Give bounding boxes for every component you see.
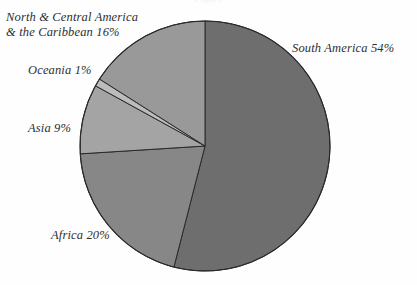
pie-label-oceania: Oceania 1%: [28, 63, 92, 78]
pie-label-africa: Africa 20%: [51, 228, 110, 243]
pie-chart-figure: Figure North & Central America & the Car…: [0, 0, 417, 285]
pie-label-asia: Asia 9%: [28, 121, 71, 136]
pie-label-north-central-america-line1: North & Central America: [6, 10, 138, 25]
pie-label-south-america: South America 54%: [292, 41, 394, 56]
pie-label-north-central-america-line2: & the Caribbean 16%: [6, 25, 138, 40]
pie-label-north-central-america: North & Central America & the Caribbean …: [6, 10, 138, 39]
